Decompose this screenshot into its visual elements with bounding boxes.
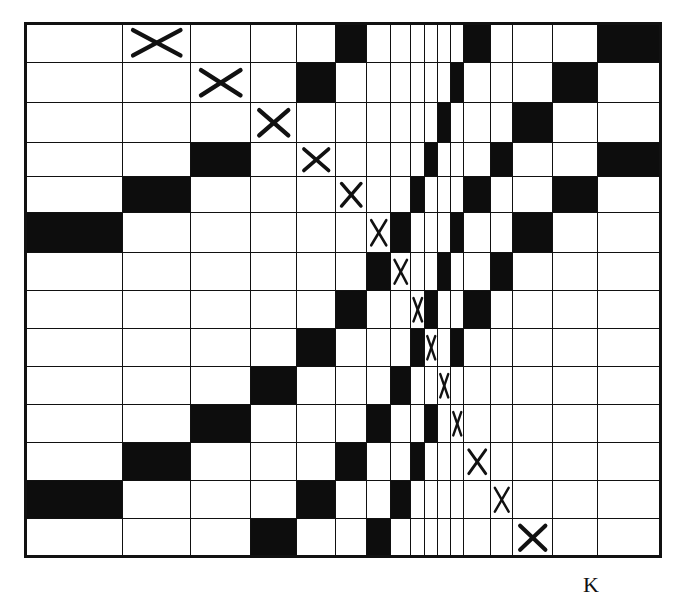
empty-cell bbox=[190, 252, 252, 292]
empty-cell bbox=[190, 442, 252, 482]
x-mark-icon bbox=[451, 405, 464, 443]
empty-cell bbox=[490, 62, 514, 104]
empty-cell bbox=[390, 442, 412, 482]
empty-cell bbox=[463, 212, 492, 254]
empty-cell bbox=[552, 290, 599, 330]
empty-cell bbox=[366, 142, 392, 178]
empty-cell bbox=[366, 290, 392, 330]
empty-cell bbox=[390, 518, 412, 558]
empty-cell bbox=[490, 22, 514, 64]
filled-cell bbox=[366, 252, 392, 292]
empty-cell bbox=[122, 328, 192, 368]
empty-cell bbox=[24, 102, 124, 144]
empty-cell bbox=[366, 22, 392, 64]
filled-cell bbox=[597, 22, 662, 64]
empty-cell bbox=[597, 328, 662, 368]
empty-cell bbox=[597, 252, 662, 292]
empty-cell bbox=[552, 22, 599, 64]
empty-cell bbox=[490, 442, 514, 482]
empty-cell bbox=[250, 22, 298, 64]
empty-cell bbox=[597, 290, 662, 330]
empty-cell bbox=[296, 404, 337, 444]
empty-cell bbox=[250, 328, 298, 368]
empty-cell bbox=[190, 518, 252, 558]
x-mark-icon bbox=[513, 519, 553, 557]
empty-cell bbox=[552, 212, 599, 254]
empty-cell bbox=[463, 62, 492, 104]
empty-cell bbox=[190, 212, 252, 254]
empty-cell bbox=[512, 404, 554, 444]
empty-cell bbox=[512, 22, 554, 64]
empty-cell bbox=[296, 252, 337, 292]
x-mark-icon bbox=[297, 143, 336, 177]
empty-cell bbox=[463, 404, 492, 444]
empty-cell bbox=[190, 102, 252, 144]
filled-cell bbox=[512, 102, 554, 144]
empty-cell bbox=[335, 404, 368, 444]
x-mark-icon bbox=[491, 481, 513, 519]
filled-cell bbox=[512, 212, 554, 254]
empty-cell bbox=[552, 366, 599, 406]
empty-cell bbox=[296, 366, 337, 406]
empty-cell bbox=[512, 442, 554, 482]
empty-cell bbox=[190, 22, 252, 64]
empty-cell bbox=[296, 22, 337, 64]
empty-cell bbox=[597, 480, 662, 520]
empty-cell bbox=[296, 176, 337, 214]
filled-cell bbox=[250, 366, 298, 406]
filled-cell bbox=[24, 212, 124, 254]
empty-cell bbox=[463, 366, 492, 406]
empty-cell bbox=[597, 366, 662, 406]
empty-cell bbox=[335, 366, 368, 406]
empty-cell bbox=[24, 328, 124, 368]
empty-cell bbox=[366, 102, 392, 144]
empty-cell bbox=[24, 62, 124, 104]
empty-cell bbox=[490, 404, 514, 444]
x-mark-icon bbox=[391, 253, 411, 291]
marked-cell bbox=[490, 480, 514, 520]
marked-cell bbox=[296, 142, 337, 178]
empty-cell bbox=[597, 176, 662, 214]
empty-cell bbox=[597, 518, 662, 558]
empty-cell bbox=[512, 176, 554, 214]
x-mark-icon bbox=[336, 177, 367, 213]
filled-cell bbox=[390, 212, 412, 254]
filled-cell bbox=[335, 442, 368, 482]
empty-cell bbox=[366, 62, 392, 104]
empty-cell bbox=[463, 518, 492, 558]
empty-cell bbox=[250, 442, 298, 482]
empty-cell bbox=[490, 328, 514, 368]
empty-cell bbox=[122, 142, 192, 178]
empty-cell bbox=[24, 176, 124, 214]
empty-cell bbox=[552, 252, 599, 292]
empty-cell bbox=[390, 290, 412, 330]
x-mark-icon bbox=[251, 103, 297, 143]
empty-cell bbox=[190, 328, 252, 368]
filled-cell bbox=[296, 480, 337, 520]
empty-cell bbox=[250, 176, 298, 214]
filled-cell bbox=[296, 328, 337, 368]
x-mark-icon bbox=[464, 443, 491, 481]
empty-cell bbox=[490, 290, 514, 330]
x-mark-icon bbox=[411, 291, 425, 329]
empty-cell bbox=[250, 62, 298, 104]
filled-cell bbox=[250, 518, 298, 558]
empty-cell bbox=[552, 328, 599, 368]
empty-cell bbox=[335, 62, 368, 104]
empty-cell bbox=[122, 212, 192, 254]
empty-cell bbox=[250, 142, 298, 178]
filled-cell bbox=[190, 404, 252, 444]
filled-cell bbox=[490, 252, 514, 292]
empty-cell bbox=[296, 518, 337, 558]
empty-cell bbox=[250, 290, 298, 330]
marked-cell bbox=[122, 22, 192, 64]
x-mark-icon bbox=[367, 213, 391, 253]
empty-cell bbox=[366, 480, 392, 520]
empty-cell bbox=[335, 480, 368, 520]
empty-cell bbox=[122, 518, 192, 558]
empty-cell bbox=[296, 102, 337, 144]
filled-cell bbox=[190, 142, 252, 178]
empty-cell bbox=[390, 404, 412, 444]
empty-cell bbox=[463, 252, 492, 292]
empty-cell bbox=[463, 480, 492, 520]
